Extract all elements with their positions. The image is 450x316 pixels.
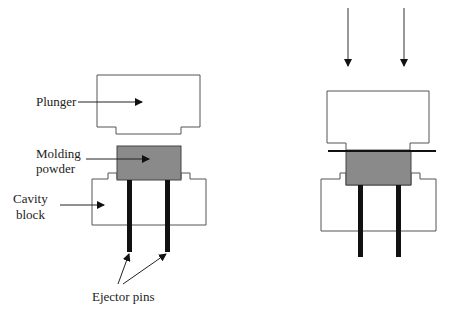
stage-before [60,75,206,284]
molding-powder-shape [117,146,181,180]
stage-during [321,8,436,257]
cavity-block-label-line1: Cavity [13,191,48,206]
ejector-pin-left [127,180,132,252]
molding-powder-compressed [346,151,411,185]
plunger-shape [97,75,200,134]
ejector-pins-label: Ejector pins [92,289,154,304]
plunger-shape-pressed [327,91,429,150]
cavity-block-shape [92,173,206,225]
molding-powder-label-line1: Molding [36,146,81,161]
cavity-block-label-line2: block [16,207,45,222]
ejector-pin-right [165,180,170,252]
ejector-pointer-right [123,254,166,284]
ejector-pin-right-pressed [396,185,401,257]
plunger-label: Plunger [36,94,76,109]
molding-powder-label-line2: powder [36,161,75,176]
ejector-pin-left-pressed [358,185,363,257]
ejector-pointer-left [118,254,129,284]
diagram-canvas: Plunger Molding powder Cavity block Ejec… [0,0,450,316]
